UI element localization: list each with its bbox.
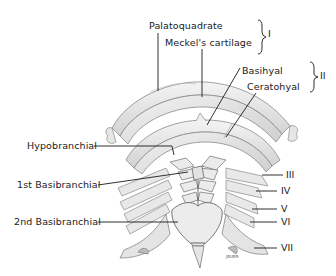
- arch-number-four: IV: [281, 186, 290, 196]
- anatomy-diagram: Palatoquadrate Meckel's cartilage I Basi…: [0, 0, 336, 276]
- branchial-arches-right: [224, 168, 268, 228]
- label-palatoquadrate: Palatoquadrate: [149, 21, 223, 31]
- label-first-basibranchial: 1st Basibranchial: [17, 180, 101, 190]
- arch-number-three: III: [286, 170, 294, 180]
- label-hypobranchial: Hypobranchial: [27, 141, 97, 151]
- arch-number-six: VI: [281, 217, 290, 227]
- label-ceratohyal: Ceratohyal: [247, 82, 300, 92]
- arch-number-two: II: [320, 71, 326, 81]
- label-second-basibranchial: 2nd Basibranchial: [14, 217, 101, 227]
- second-basibranchial-shape: [172, 203, 222, 268]
- label-meckels-cartilage: Meckel's cartilage: [165, 38, 252, 48]
- artist-signature: JBURR: [226, 254, 238, 259]
- bracket-arch-two: [310, 62, 318, 92]
- arch-number-one: I: [268, 29, 271, 39]
- label-basihyal: Basihyal: [242, 66, 283, 76]
- bracket-arch-one: [258, 20, 266, 54]
- arch-number-seven: VII: [281, 243, 293, 253]
- arch-number-five: V: [281, 204, 288, 214]
